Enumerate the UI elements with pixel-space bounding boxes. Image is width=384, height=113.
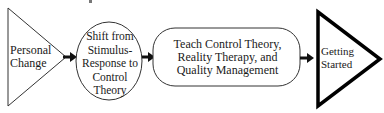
label-line: Shift from bbox=[78, 30, 142, 44]
label-line: Control bbox=[78, 71, 142, 85]
arrow-icon bbox=[63, 52, 77, 62]
label-line: Getting bbox=[321, 45, 354, 58]
top-artifact bbox=[89, 0, 92, 3]
label-line: Response to bbox=[78, 57, 142, 71]
label-line: Started bbox=[321, 58, 354, 71]
node-label-getting-started: Getting Started bbox=[321, 45, 354, 71]
label-line: Stimulus- bbox=[78, 44, 142, 58]
label-line: Change bbox=[10, 57, 51, 70]
arrow-icon bbox=[300, 53, 314, 63]
node-label-teach: Teach Control Theory, Reality Therapy, a… bbox=[155, 38, 300, 77]
label-line: Theory bbox=[78, 84, 142, 98]
node-label-personal-change: Personal Change bbox=[10, 44, 51, 70]
label-line: Quality Management bbox=[155, 64, 300, 77]
node-label-shift: Shift from Stimulus- Response to Control… bbox=[78, 30, 142, 98]
